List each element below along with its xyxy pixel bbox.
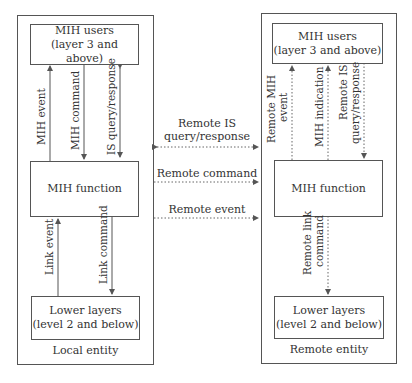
- remote-entity-caption: Remote entity: [261, 343, 397, 356]
- mih-event-label: MIH event: [35, 88, 47, 145]
- local-mih-users-subtitle: (layer 3 and above): [31, 38, 138, 66]
- is-query-response-label: IS query/response: [105, 58, 117, 155]
- remote-lower-layers-title: Lower layers: [293, 304, 365, 318]
- mih-command-label: MIH command: [69, 71, 81, 150]
- local-lower-layers-title: Lower layers: [49, 304, 121, 318]
- local-mih-users-title: MIH users: [55, 24, 114, 38]
- local-mih-function-label: MIH function: [47, 182, 122, 196]
- remote-lower-layers-subtitle: (level 2 and below): [276, 318, 382, 332]
- remote-mih-users-subtitle: (layer 3 and above): [274, 44, 382, 58]
- remote-mih-function-box: MIH function: [274, 160, 383, 217]
- remote-event-label: Remote event: [155, 203, 259, 216]
- remote-link-command-label-2: command: [313, 215, 325, 267]
- remote-is-query-label-1: Remote IS: [157, 117, 257, 130]
- remote-mih-event-label-2: event: [277, 93, 289, 122]
- remote-mih-event-label-1: Remote MIH: [265, 75, 277, 143]
- remote-mih-function-label: MIH function: [291, 182, 366, 196]
- remote-mih-users-title: MIH users: [298, 30, 357, 44]
- remote-command-label: Remote command: [155, 167, 259, 180]
- link-command-label: Link command: [97, 205, 109, 284]
- remote-mih-users-box: MIH users (layer 3 and above): [272, 23, 383, 64]
- remote-is-label-1: Remote IS: [337, 64, 349, 120]
- remote-link-command-label-1: Remote link: [301, 211, 313, 275]
- remote-is-label-2: query/response: [349, 62, 361, 144]
- remote-lower-layers-box: Lower layers (level 2 and below): [274, 296, 384, 339]
- local-lower-layers-subtitle: (level 2 and below): [32, 318, 138, 332]
- local-lower-layers-box: Lower layers (level 2 and below): [31, 296, 140, 340]
- local-mih-function-box: MIH function: [30, 161, 139, 217]
- local-entity-caption: Local entity: [17, 344, 154, 357]
- remote-is-query-label-2: query/response: [157, 130, 257, 143]
- local-mih-users-box: MIH users (layer 3 and above): [30, 24, 139, 65]
- mih-indication-label: MIH indication: [313, 67, 325, 147]
- link-event-label: Link event: [43, 219, 55, 275]
